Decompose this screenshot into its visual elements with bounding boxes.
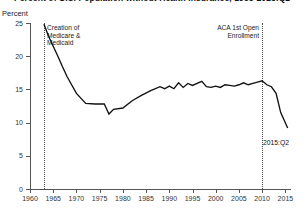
uninsured-rate-chart: Percent of U.S. Population without Healt…	[0, 0, 307, 213]
series-line-uninsured-rate	[0, 0, 307, 213]
